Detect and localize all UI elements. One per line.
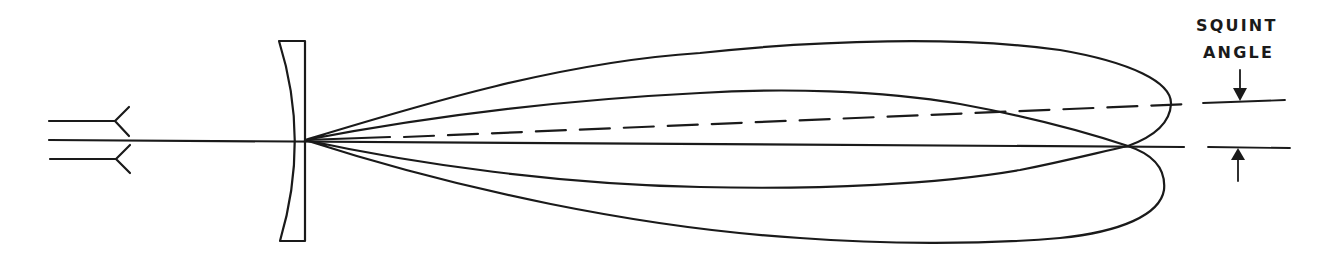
feed-horn-lower — [50, 145, 130, 173]
boresight-axis — [49, 140, 1184, 147]
squint-marker-top-line — [1203, 100, 1285, 103]
reference-beam-lobe — [305, 140, 1164, 243]
squinted-beam-lobe — [305, 41, 1171, 146]
arrow-up-icon — [1231, 148, 1245, 160]
squint-marker-bottom-line — [1208, 147, 1290, 148]
squint-angle-marker — [1203, 70, 1290, 181]
squint-label: SQUINT — [1196, 18, 1278, 34]
antenna-squint-diagram — [0, 0, 1331, 269]
angle-label: ANGLE — [1203, 45, 1274, 61]
feed-horn-upper — [49, 107, 129, 136]
squint-axis-dashed — [305, 104, 1188, 140]
arrow-down-icon — [1233, 88, 1247, 101]
squint-axis-dashes — [404, 104, 1188, 137]
